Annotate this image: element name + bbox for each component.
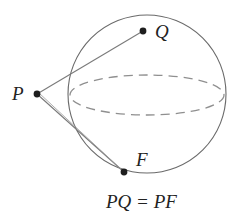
sphere-tangent-diagram: P Q F PQ = PF: [0, 0, 239, 222]
label-p: P: [11, 83, 24, 104]
point-f: [121, 169, 128, 176]
caption-equation: PQ = PF: [105, 191, 177, 212]
segment-pq: [37, 31, 143, 94]
segment-pf-tangent-edge: [39, 93, 124, 172]
label-f: F: [135, 149, 148, 170]
sphere-equator-dashed: [70, 75, 224, 115]
point-p: [34, 91, 41, 98]
point-q: [140, 28, 147, 35]
label-q: Q: [155, 21, 169, 42]
